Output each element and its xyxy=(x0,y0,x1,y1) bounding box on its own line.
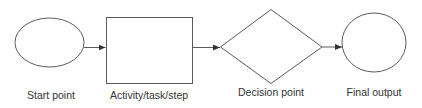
start-point-node xyxy=(15,18,84,67)
activity-node xyxy=(107,18,193,84)
start-point-label: Start point xyxy=(27,89,75,101)
decision-node xyxy=(221,10,323,84)
final-output-node xyxy=(342,13,406,72)
activity-label: Activity/task/step xyxy=(110,89,188,101)
final-output-label: Final output xyxy=(347,86,402,98)
decision-point-label: Decision point xyxy=(238,86,304,98)
